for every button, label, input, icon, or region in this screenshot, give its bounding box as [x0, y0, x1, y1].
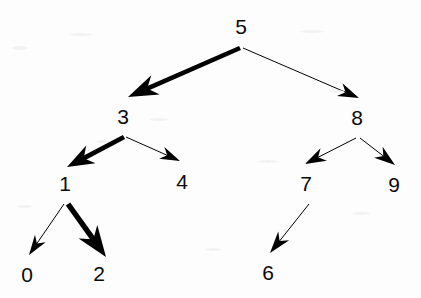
edge-shaft [80, 137, 124, 160]
tree-node-9: 9 [388, 174, 400, 195]
tree-node-7: 7 [300, 173, 312, 194]
tree-node-2: 2 [93, 263, 105, 284]
edge-shaft [315, 138, 356, 159]
tree-node-4: 4 [176, 171, 188, 192]
tree-edge-1-to-0 [29, 204, 64, 255]
edge-shaft [278, 204, 309, 244]
edge-shaft [243, 48, 348, 93]
edge-arrowhead [29, 235, 46, 255]
tree-edge-8-to-7 [305, 138, 356, 164]
tree-node-6: 6 [262, 262, 274, 283]
tree-edges-svg [0, 0, 421, 298]
tree-diagram-canvas: 5381479026 [0, 0, 421, 298]
edge-arrowhead [270, 231, 289, 253]
tree-node-8: 8 [351, 107, 363, 128]
tree-edge-3-to-1 [67, 137, 124, 167]
tree-edge-1-to-2 [68, 204, 106, 257]
tree-edge-5-to-3 [128, 48, 240, 97]
edge-shaft [360, 138, 386, 158]
edge-arrowhead [79, 225, 106, 257]
edge-layer [29, 48, 395, 257]
tree-node-5: 5 [235, 16, 247, 37]
edge-arrowhead [337, 83, 359, 98]
tree-node-3: 3 [117, 106, 129, 127]
edge-shaft [35, 204, 64, 246]
tree-edge-8-to-9 [360, 138, 395, 165]
edge-shaft [126, 137, 170, 157]
tree-edge-3-to-4 [126, 137, 180, 161]
edge-arrowhead [374, 147, 395, 165]
edge-shaft [68, 204, 96, 243]
tree-node-0: 0 [21, 264, 33, 285]
tree-node-1: 1 [59, 173, 71, 194]
edge-arrowhead [159, 147, 180, 161]
edge-arrowhead [305, 148, 327, 164]
edge-shaft [143, 48, 240, 90]
tree-edge-5-to-8 [243, 48, 359, 98]
tree-edge-7-to-6 [270, 204, 309, 253]
